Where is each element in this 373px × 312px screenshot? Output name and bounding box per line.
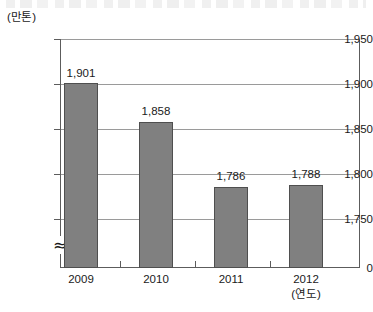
top-scan-artifact [6,0,366,8]
gridline-1850 [60,129,360,130]
x-category-label-2012: 2012 [276,273,336,286]
bar-value-2012: 1,788 [276,168,336,181]
x-tick-mark-2 [195,261,196,268]
x-tick-mark-3 [270,261,271,268]
bar-value-2011: 1,786 [201,170,261,183]
bar-2011 [214,187,248,268]
bar-2010 [139,122,173,268]
gridline-1950 [60,39,360,40]
bar-2012 [289,185,323,268]
y-tick-label-1900: 1,900 [325,78,373,90]
x-category-label-2011: 2011 [201,273,261,286]
y-tick-mark-1800 [54,174,60,175]
y-tick-label-1850: 1,850 [325,123,373,135]
y-tick-mark-1750 [54,219,60,220]
x-category-label-2009: 2009 [51,273,111,286]
y-tick-label-1750: 1,750 [325,213,373,225]
y-tick-mark-1850 [54,129,60,130]
x-tick-mark-1 [120,261,121,268]
x-axis-caption: (연도) [276,288,336,301]
y-tick-label-1950: 1,950 [325,33,373,45]
y-tick-mark-1950 [54,39,60,40]
y-axis-unit-label: (만톤) [7,11,36,24]
bar-value-2009: 1,901 [51,67,111,80]
bar-value-2010: 1,858 [126,105,186,118]
y-tick-mark-1900 [54,84,60,85]
x-category-label-2010: 2010 [126,273,186,286]
gridline-1900 [60,84,360,85]
bar-2009 [64,83,98,268]
